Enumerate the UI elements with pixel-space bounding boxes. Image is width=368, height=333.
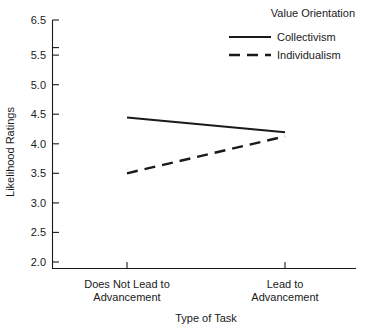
x-axis-title: Type of Task [175, 312, 237, 324]
x-tick-labels: Does Not Lead to Advancement Lead to Adv… [84, 278, 318, 303]
y-tick-label-4-5: 4.5 [31, 108, 46, 120]
y-tick-label-5-5: 5.5 [31, 49, 46, 61]
x-tick-marks [127, 262, 285, 269]
line-chart: 6.5 5.5 5.0 4.5 4.0 3.5 3.0 2.5 2.0 Does… [0, 0, 368, 333]
y-tick-label-6-5: 6.5 [31, 14, 46, 26]
x-category-0-line1: Does Not Lead to [84, 278, 170, 290]
legend: Value Orientation Collectivism Individua… [229, 7, 355, 61]
y-tick-label-2-5: 2.5 [31, 226, 46, 238]
chart-figure: 6.5 5.5 5.0 4.5 4.0 3.5 3.0 2.5 2.0 Does… [0, 0, 368, 333]
x-category-0-line2: Advancement [93, 291, 160, 303]
y-tick-label-2-0: 2.0 [31, 256, 46, 268]
y-tick-label-3-0: 3.0 [31, 197, 46, 209]
y-axis-title: Likelihood Ratings [4, 107, 16, 197]
series-individualism-line [127, 136, 285, 173]
y-tick-label-4-0: 4.0 [31, 138, 46, 150]
x-category-1-line2: Advancement [251, 291, 318, 303]
data-series-group [127, 118, 285, 174]
legend-label-collectivism: Collectivism [277, 31, 336, 43]
legend-title: Value Orientation [271, 7, 355, 19]
y-tick-marks [53, 20, 60, 262]
y-tick-label-3-5: 3.5 [31, 167, 46, 179]
y-tick-label-5-0: 5.0 [31, 79, 46, 91]
y-tick-labels: 6.5 5.5 5.0 4.5 4.0 3.5 3.0 2.5 2.0 [31, 14, 46, 268]
legend-label-individualism: Individualism [277, 49, 341, 61]
x-category-1-line1: Lead to [267, 278, 304, 290]
series-collectivism-line [127, 118, 285, 133]
